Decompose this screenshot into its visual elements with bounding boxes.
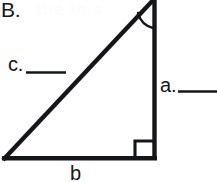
- problem-number-label: B.: [1, 0, 20, 20]
- triangle-outline: [2, 0, 157, 160]
- hypotenuse-line-c: [3, 0, 156, 160]
- right-angle-square-marker: [135, 141, 153, 158]
- right-triangle-drawing: [0, 0, 217, 182]
- vertical-leg-label-a: a.: [160, 75, 176, 95]
- horizontal-leg-label-b: b: [70, 163, 81, 182]
- hypotenuse-label-c: c.: [8, 54, 23, 74]
- triangle-figure: the in s B. c. a. b: [0, 0, 217, 182]
